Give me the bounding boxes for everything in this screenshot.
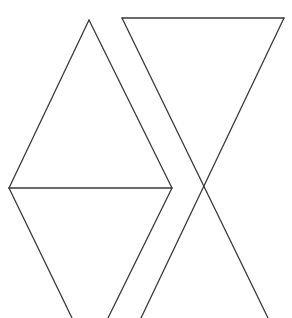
canvas-background	[0, 0, 292, 318]
diagram-canvas	[0, 0, 292, 318]
